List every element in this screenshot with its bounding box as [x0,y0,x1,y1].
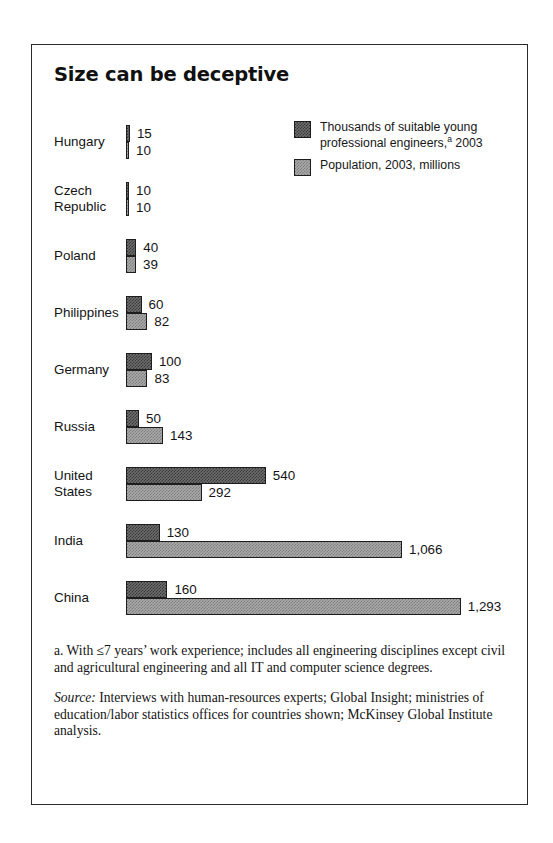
bar-value-population-germany: 83 [154,370,169,387]
bar-population-poland [126,256,136,273]
bar-value-engineers-china: 160 [174,581,196,598]
bar-row-label-china: China [54,590,89,606]
bar-value-population-united-states: 292 [209,484,231,501]
bar-row: Germany10083 [32,353,529,387]
bar-population-india [126,541,402,558]
bar-value-engineers-czech-republic: 10 [136,182,151,199]
bar-row-label-germany: Germany [54,362,109,378]
footnote-text: a. With ≤7 years’ work experience; inclu… [54,643,506,676]
bar-value-engineers-poland: 40 [143,239,158,256]
source-text: Interviews with human-resources experts;… [54,690,492,738]
bar-population-czech-republic [126,199,129,216]
bar-row-label-czech-republic: Czech Republic [54,183,106,215]
exhibit-panel: Size can be deceptive Thousands of suita… [31,44,528,805]
source-label: Source: [54,690,96,705]
source-note: Source: Interviews with human-resources … [54,690,506,740]
bar-value-engineers-united-states: 540 [273,467,295,484]
bar-row: United States540292 [32,467,529,501]
bar-population-hungary [126,142,129,159]
bar-row: Czech Republic1010 [32,182,529,216]
bar-engineers-czech-republic [126,182,129,199]
bar-engineers-russia [126,410,139,427]
bar-value-population-russia: 143 [170,427,192,444]
bar-value-engineers-philippines: 60 [149,296,164,313]
bar-engineers-united-states [126,467,266,484]
bar-row: India1301,066 [32,524,529,558]
bar-value-population-hungary: 10 [136,142,151,159]
bar-population-united-states [126,484,202,501]
bar-engineers-india [126,524,160,541]
bar-value-engineers-germany: 100 [159,353,181,370]
bar-row-label-russia: Russia [54,419,95,435]
bar-population-germany [126,370,147,387]
bar-row: Hungary1510 [32,125,529,159]
bar-row-label-united-states: United States [54,468,93,500]
bar-population-philippines [126,313,147,330]
chart-notes: a. With ≤7 years’ work experience; inclu… [54,643,506,740]
bar-chart-plot: Hungary1510Czech Republic1010Poland4039P… [32,45,529,645]
bar-value-population-india: 1,066 [409,541,443,558]
bar-row: Russia50143 [32,410,529,444]
bar-value-population-czech-republic: 10 [136,199,151,216]
bar-value-engineers-hungary: 15 [137,125,152,142]
bar-value-engineers-india: 130 [167,524,189,541]
bar-row: Philippines6082 [32,296,529,330]
bar-value-engineers-russia: 50 [146,410,161,427]
bar-row: Poland4039 [32,239,529,273]
bar-value-population-philippines: 82 [154,313,169,330]
bar-engineers-hungary [126,125,130,142]
bar-value-population-poland: 39 [143,256,158,273]
bar-row-label-poland: Poland [54,248,96,264]
bar-row-label-philippines: Philippines [54,305,119,321]
bar-engineers-china [126,581,167,598]
bar-population-russia [126,427,163,444]
bar-value-population-china: 1,293 [468,598,502,615]
bar-row-label-hungary: Hungary [54,134,105,150]
bar-engineers-philippines [126,296,142,313]
bar-engineers-poland [126,239,136,256]
bar-row: China1601,293 [32,581,529,615]
bar-population-china [126,598,461,615]
bar-engineers-germany [126,353,152,370]
bar-row-label-india: India [54,533,83,549]
